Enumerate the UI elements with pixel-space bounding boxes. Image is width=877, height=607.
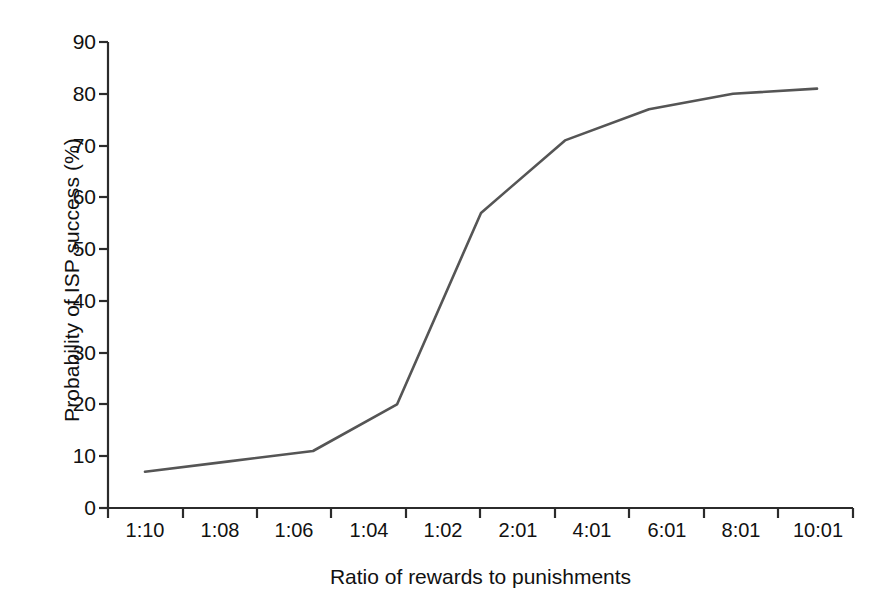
x-tick-label: 2:01 bbox=[499, 519, 538, 542]
x-tick-label: 1:08 bbox=[201, 519, 240, 542]
chart-figure: Probability of ISP success (%) 90 80 70 … bbox=[0, 0, 877, 607]
x-tick-label: 4:01 bbox=[573, 519, 612, 542]
x-axis-ticks bbox=[108, 508, 853, 518]
data-series-line bbox=[145, 89, 817, 472]
x-tick-label: 1:10 bbox=[126, 519, 165, 542]
x-axis-title: Ratio of rewards to punishments bbox=[108, 565, 853, 589]
plot-area bbox=[0, 0, 877, 607]
x-tick-label: 8:01 bbox=[722, 519, 761, 542]
x-axis-tick-labels: 1:10 1:08 1:06 1:04 1:02 2:01 4:01 6:01 … bbox=[108, 519, 853, 549]
x-tick-label: 1:04 bbox=[350, 519, 389, 542]
x-tick-label: 1:02 bbox=[424, 519, 463, 542]
y-axis-ticks bbox=[99, 42, 108, 508]
x-tick-label: 1:06 bbox=[275, 519, 314, 542]
x-tick-label: 10:01 bbox=[793, 519, 843, 542]
x-tick-label: 6:01 bbox=[648, 519, 687, 542]
